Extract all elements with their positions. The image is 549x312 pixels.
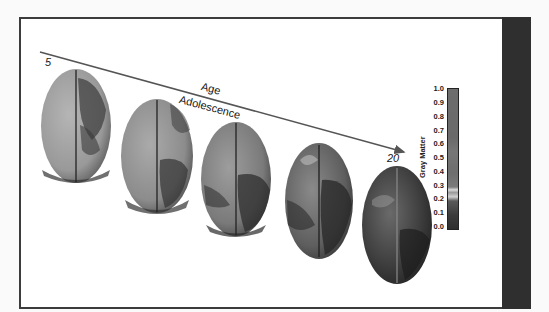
colorbar-tick: 0.6 xyxy=(430,139,444,148)
colorbar-tick: 0.9 xyxy=(430,98,444,107)
brain-age-2 xyxy=(121,99,193,214)
colorbar-title: Gray Matter xyxy=(418,136,427,178)
colorbar-tick: 0.7 xyxy=(430,126,444,135)
colorbar-tick: 1.0 xyxy=(430,84,444,93)
age-start-label: 5 xyxy=(45,56,51,68)
brain-age-5 xyxy=(362,166,432,284)
age-end-label: 20 xyxy=(387,152,399,164)
brain-development-figure xyxy=(0,0,549,312)
brain-age-1 xyxy=(41,69,111,183)
brain-age-3 xyxy=(201,122,271,237)
gray-matter-colorbar xyxy=(447,88,459,230)
colorbar-tick: 0.1 xyxy=(430,208,444,217)
colorbar-tick: 0.3 xyxy=(430,181,444,190)
colorbar-tick: 0.2 xyxy=(430,194,444,203)
colorbar-tick: 0.8 xyxy=(430,112,444,121)
colorbar-tick: 0.5 xyxy=(430,153,444,162)
colorbar-tick: 0.4 xyxy=(430,167,444,176)
brain-age-4 xyxy=(285,143,353,259)
colorbar-tick: 0.0 xyxy=(430,222,444,231)
